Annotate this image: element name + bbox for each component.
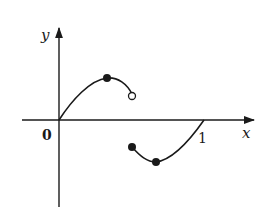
y-axis-label: y bbox=[40, 26, 50, 44]
x-tick-one-label: 1 bbox=[198, 130, 207, 146]
function-graph: y x 0 1 bbox=[0, 0, 274, 211]
origin-label: 0 bbox=[42, 127, 52, 143]
right-arc-min-point bbox=[152, 158, 160, 166]
left-arc-curve bbox=[59, 78, 132, 120]
right-arc-start-point bbox=[128, 143, 136, 151]
left-arc-open-endpoint bbox=[129, 93, 136, 100]
right-arc-curve bbox=[132, 120, 204, 162]
x-axis-label: x bbox=[242, 124, 251, 142]
left-arc-max-point bbox=[103, 74, 111, 82]
